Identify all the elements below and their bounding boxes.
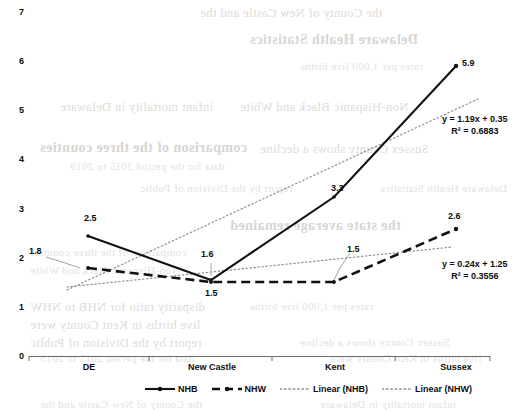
trendline-equation-nhb: y = 1.19x + 0.35 R² = 0.6883 (442, 113, 508, 137)
nhb-equation-text: y = 1.19x + 0.35 (442, 113, 508, 125)
y-tick-label-1: 1 (6, 302, 24, 312)
trendline-nhb (67, 99, 478, 290)
legend-label-nhb: NHB (178, 384, 198, 394)
y-tick-label-6: 6 (6, 56, 24, 66)
data-label-nhb-kent: 3.3 (331, 183, 344, 193)
y-tick-label-3: 3 (6, 204, 24, 214)
plot-area (0, 0, 520, 410)
data-label-nhb-sussex: 5.9 (462, 58, 475, 68)
legend-label-linear-nhw: Linear (NHW) (415, 384, 472, 394)
trendline-equation-nhw: y = 0.24x + 1.25 R² = 0.3556 (442, 258, 508, 282)
x-axis-ticks (29, 357, 490, 362)
legend-item-nhw[interactable]: NHW (212, 384, 267, 394)
x-tick-label-de: DE (44, 362, 134, 372)
legend-key-nhb-solid-line-icon (145, 384, 175, 394)
data-label-nhb-de: 2.5 (84, 213, 97, 223)
legend-label-nhw: NHW (245, 384, 267, 394)
x-tick-label-kent: Kent (290, 362, 380, 372)
data-label-nhw-de: 1.8 (29, 246, 42, 256)
y-tick-label-7: 7 (6, 7, 24, 17)
x-tick-label-sussex: Sussex (411, 362, 501, 372)
legend-item-linear-nhb[interactable]: Linear (NHB) (280, 384, 368, 394)
nhw-equation-text: y = 0.24x + 1.25 (442, 258, 508, 270)
nhb-r2-text: R² = 0.6883 (442, 125, 508, 137)
series-markers-nhb (86, 64, 458, 282)
y-tick-label-4: 4 (6, 154, 24, 164)
legend-item-nhb[interactable]: NHB (145, 384, 198, 394)
data-label-nhw-kent: 1.5 (347, 244, 360, 254)
series-line-nhb (88, 66, 456, 280)
legend-key-nhw-dashed-line-icon (212, 384, 242, 394)
x-tick-label-new-castle: New Castle (167, 362, 257, 372)
chart-legend: NHB NHW Linear (NHB) (145, 381, 486, 397)
data-label-nhw-newcastle: 1.5 (205, 288, 218, 298)
nhw-r2-text: R² = 0.3556 (442, 270, 508, 282)
y-tick-label-2: 2 (6, 253, 24, 263)
y-tick-label-5: 5 (6, 105, 24, 115)
legend-key-linear-nhw-dotted-line-icon (382, 384, 412, 394)
data-label-nhw-sussex: 2.6 (448, 211, 461, 221)
data-label-nhb-newcastle: 1.6 (201, 249, 214, 259)
y-tick-label-0: 0 (6, 351, 24, 361)
legend-label-linear-nhb: Linear (NHB) (313, 384, 368, 394)
chart-container: the County of New Castle and the Delawar… (0, 0, 520, 410)
legend-item-linear-nhw[interactable]: Linear (NHW) (382, 384, 472, 394)
legend-key-linear-nhb-dotted-line-icon (280, 384, 310, 394)
